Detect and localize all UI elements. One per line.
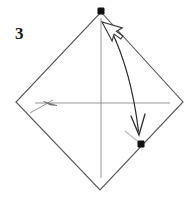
top-corner-marker: [98, 8, 105, 15]
crease-line-short-diagonal: [30, 100, 53, 113]
target-corner-marker: [138, 141, 145, 148]
origami-diagram-svg: [0, 0, 193, 199]
mouse-pointer-cursor-icon[interactable]: [102, 15, 127, 43]
step-number-label: 3: [15, 24, 24, 44]
fold-arrow-shaft: [110, 28, 139, 131]
paper-outline-diamond: [16, 12, 183, 190]
origami-step-figure: 3: [0, 0, 193, 199]
